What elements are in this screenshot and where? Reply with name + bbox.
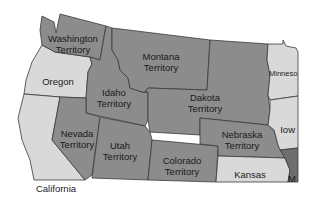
label-kansas: Kansas (234, 169, 266, 180)
label-minnesota: Minneso (269, 69, 297, 78)
label-iowa: Iow (280, 124, 295, 135)
label-washington-2: Territory (56, 44, 91, 55)
label-dakota: Dakota (190, 92, 221, 103)
label-colorado-2: Territory (165, 166, 200, 177)
label-washington: Washington (48, 33, 98, 44)
label-nevada: Nevada (61, 128, 94, 139)
label-oregon: Oregon (42, 76, 74, 87)
label-utah: Utah (110, 140, 130, 151)
label-nebraska-2: Territory (225, 140, 260, 151)
label-california: California (36, 183, 77, 194)
territories-map: Washington Territory Montana Territory O… (0, 0, 311, 207)
label-nevada-2: Territory (60, 139, 95, 150)
label-idaho-2: Territory (97, 98, 132, 109)
label-idaho: Idaho (102, 87, 126, 98)
label-missouri: M (288, 173, 296, 184)
label-dakota-2: Territory (188, 103, 223, 114)
label-utah-2: Territory (103, 151, 138, 162)
label-colorado: Colorado (163, 155, 202, 166)
label-montana: Montana (143, 51, 181, 62)
label-nebraska: Nebraska (222, 129, 263, 140)
label-montana-2: Territory (144, 62, 179, 73)
